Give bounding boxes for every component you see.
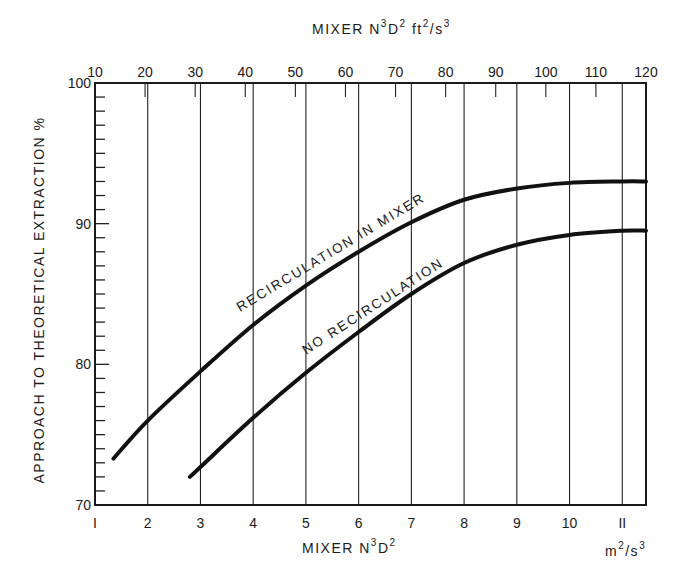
x-tick-label: 4 xyxy=(249,515,257,531)
top-tick-label: 120 xyxy=(634,64,658,80)
x-tick-label: 9 xyxy=(513,515,521,531)
top-tick-label: 90 xyxy=(488,64,504,80)
x-axis-ticks: I2345678910II xyxy=(93,515,626,531)
y-axis-title: APPROACH TO THEORETICAL EXTRACTION % xyxy=(31,117,47,484)
top-axis-ticks: 102030405060708090100110120 xyxy=(87,64,658,97)
x-tick-label: II xyxy=(618,515,626,531)
x-axis-title: MIXER N3D2 xyxy=(302,537,397,556)
svg-text:MIXER N3D2: MIXER N3D2 xyxy=(302,537,397,556)
curve-labels: RECIRCULATION IN MIXERNO RECIRCULATION xyxy=(234,190,446,358)
x-tick-label: 8 xyxy=(460,515,468,531)
x-tick-label: 3 xyxy=(197,515,205,531)
x-tick-label: 10 xyxy=(562,515,578,531)
top-tick-label: 100 xyxy=(534,64,558,80)
top-tick-label: 40 xyxy=(237,64,253,80)
plot-frame xyxy=(95,83,646,505)
svg-text:m2/s3: m2/s3 xyxy=(605,540,646,559)
no-recirculation-label: NO RECIRCULATION xyxy=(299,255,446,358)
top-tick-label: 70 xyxy=(388,64,404,80)
top-tick-label: 80 xyxy=(438,64,454,80)
svg-text:MIXER N3D2 ft2/s3: MIXER N3D2 ft2/s3 xyxy=(312,18,451,37)
x-tick-label: I xyxy=(93,515,97,531)
x-tick-label: 7 xyxy=(407,515,415,531)
top-tick-label: 20 xyxy=(137,64,153,80)
x-tick-label: 2 xyxy=(144,515,152,531)
y-tick-label: 70 xyxy=(75,497,91,513)
top-axis-title: MIXER N3D2 ft2/s3 xyxy=(312,18,451,37)
x-tick-label: 6 xyxy=(355,515,363,531)
chart: MIXER N3D2 ft2/s3 1020304050607080901001… xyxy=(0,0,683,587)
x-axis-unit: m2/s3 xyxy=(605,540,646,559)
top-tick-label: 110 xyxy=(585,64,608,80)
top-tick-label: 50 xyxy=(288,64,304,80)
top-tick-label: 30 xyxy=(187,64,203,80)
x-tick-label: 5 xyxy=(302,515,310,531)
y-tick-label: 90 xyxy=(75,216,91,232)
y-tick-label: 80 xyxy=(75,356,91,372)
top-tick-label: 60 xyxy=(338,64,354,80)
y-axis-ticks: 708090100 xyxy=(68,75,109,513)
y-tick-label: 100 xyxy=(68,75,92,91)
